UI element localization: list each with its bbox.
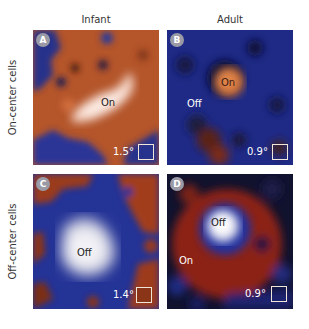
panel-d-adult-off-center: D Off On 0.9° — [167, 174, 293, 309]
panel-badge-a: A — [36, 33, 50, 47]
scale-value: 0.9° — [245, 288, 266, 299]
scale-box-icon — [136, 287, 152, 303]
panel-b-adult-on-center: B On Off 0.9° — [167, 30, 293, 165]
scale-box-icon — [272, 144, 288, 160]
panel-badge-b: B — [170, 33, 184, 47]
panel-badge-d: D — [170, 177, 184, 191]
region-label-on: On — [179, 255, 193, 266]
region-label-on: On — [221, 77, 235, 88]
scale-value: 1.4° — [113, 289, 134, 300]
region-label-off: Off — [77, 247, 92, 258]
panel-badge-c: C — [36, 177, 50, 191]
panel-c-infant-off-center: C Off 1.4° — [33, 174, 159, 309]
region-label-off: Off — [211, 217, 226, 228]
panel-a-infant-on-center: A On 1.5° — [33, 30, 159, 165]
scale-value: 1.5° — [113, 146, 134, 157]
scale-box-icon — [271, 286, 287, 302]
scale-box-icon — [138, 144, 154, 160]
row-label-on-center: On-center cells — [7, 30, 18, 165]
scale-value: 0.9° — [247, 146, 268, 157]
region-label-on: On — [101, 97, 115, 108]
row-label-off-center: Off-center cells — [7, 174, 18, 309]
column-label-infant: Infant — [33, 14, 159, 25]
region-label-off: Off — [187, 98, 202, 109]
column-label-adult: Adult — [167, 14, 293, 25]
